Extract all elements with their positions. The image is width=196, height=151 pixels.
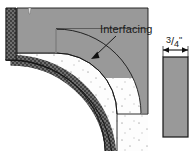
outer-band-top [6,8,16,60]
dimension-fraction: 3/4 [166,36,179,47]
dimension-arrowhead-right [182,47,188,53]
dimension-unit: " [179,35,182,45]
dimension-arrowhead-left [163,47,169,53]
dimension-label: 3/4" [166,36,182,47]
bias-strip [163,57,188,137]
diagram-root: Interfacing 3/4" [0,0,196,151]
interfacing-label: Interfacing [100,24,152,35]
figure-svg [0,0,196,151]
dimension-denominator: 4 [174,39,179,49]
dimension-numerator: 3 [166,35,171,45]
bias-strip-rect [163,57,188,137]
